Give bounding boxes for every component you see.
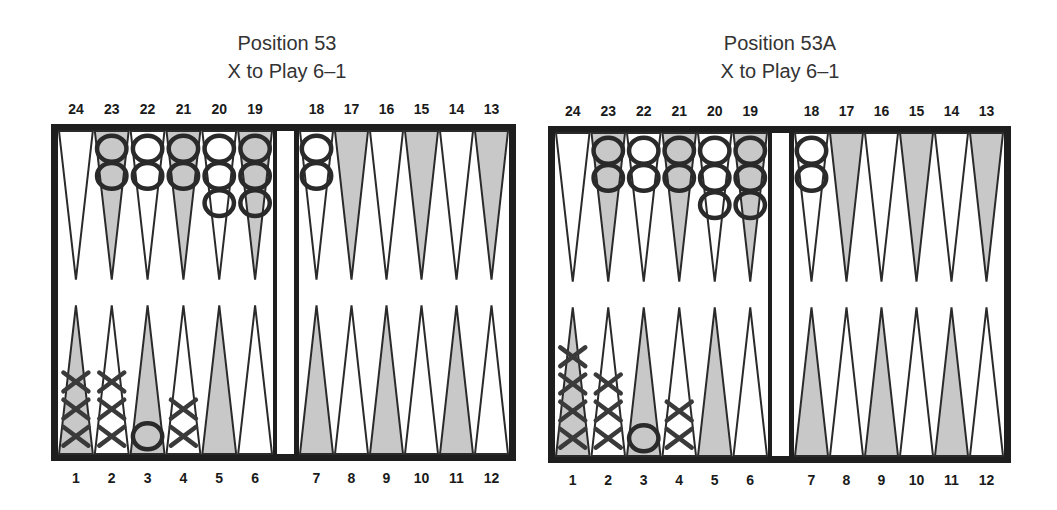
point-label: 21 (671, 103, 687, 119)
bar-right-edge (789, 133, 794, 456)
backgammon-board: 241232223214205196187178169151014111312 (0, 0, 1057, 510)
point-label: 20 (707, 103, 723, 119)
point-label: 17 (839, 103, 855, 119)
point-label: 19 (742, 103, 758, 119)
point-label: 4 (675, 472, 683, 488)
point-label: 15 (909, 103, 925, 119)
point-label: 13 (979, 103, 995, 119)
point-label: 14 (944, 103, 960, 119)
point-label: 23 (600, 103, 616, 119)
point-label: 12 (979, 472, 995, 488)
point-label: 5 (711, 472, 719, 488)
point-label: 1 (569, 472, 577, 488)
point-label: 8 (843, 472, 851, 488)
bar-left-edge (768, 133, 772, 456)
point-label: 9 (878, 472, 886, 488)
point-label: 3 (640, 472, 648, 488)
point-label: 10 (909, 472, 925, 488)
point-label: 11 (944, 472, 959, 488)
point-label: 24 (565, 103, 581, 119)
point-label: 7 (808, 472, 816, 488)
point-label: 2 (604, 472, 612, 488)
point-label: 22 (636, 103, 652, 119)
point-label: 16 (874, 103, 890, 119)
point-label: 6 (746, 472, 754, 488)
point-label: 18 (804, 103, 820, 119)
